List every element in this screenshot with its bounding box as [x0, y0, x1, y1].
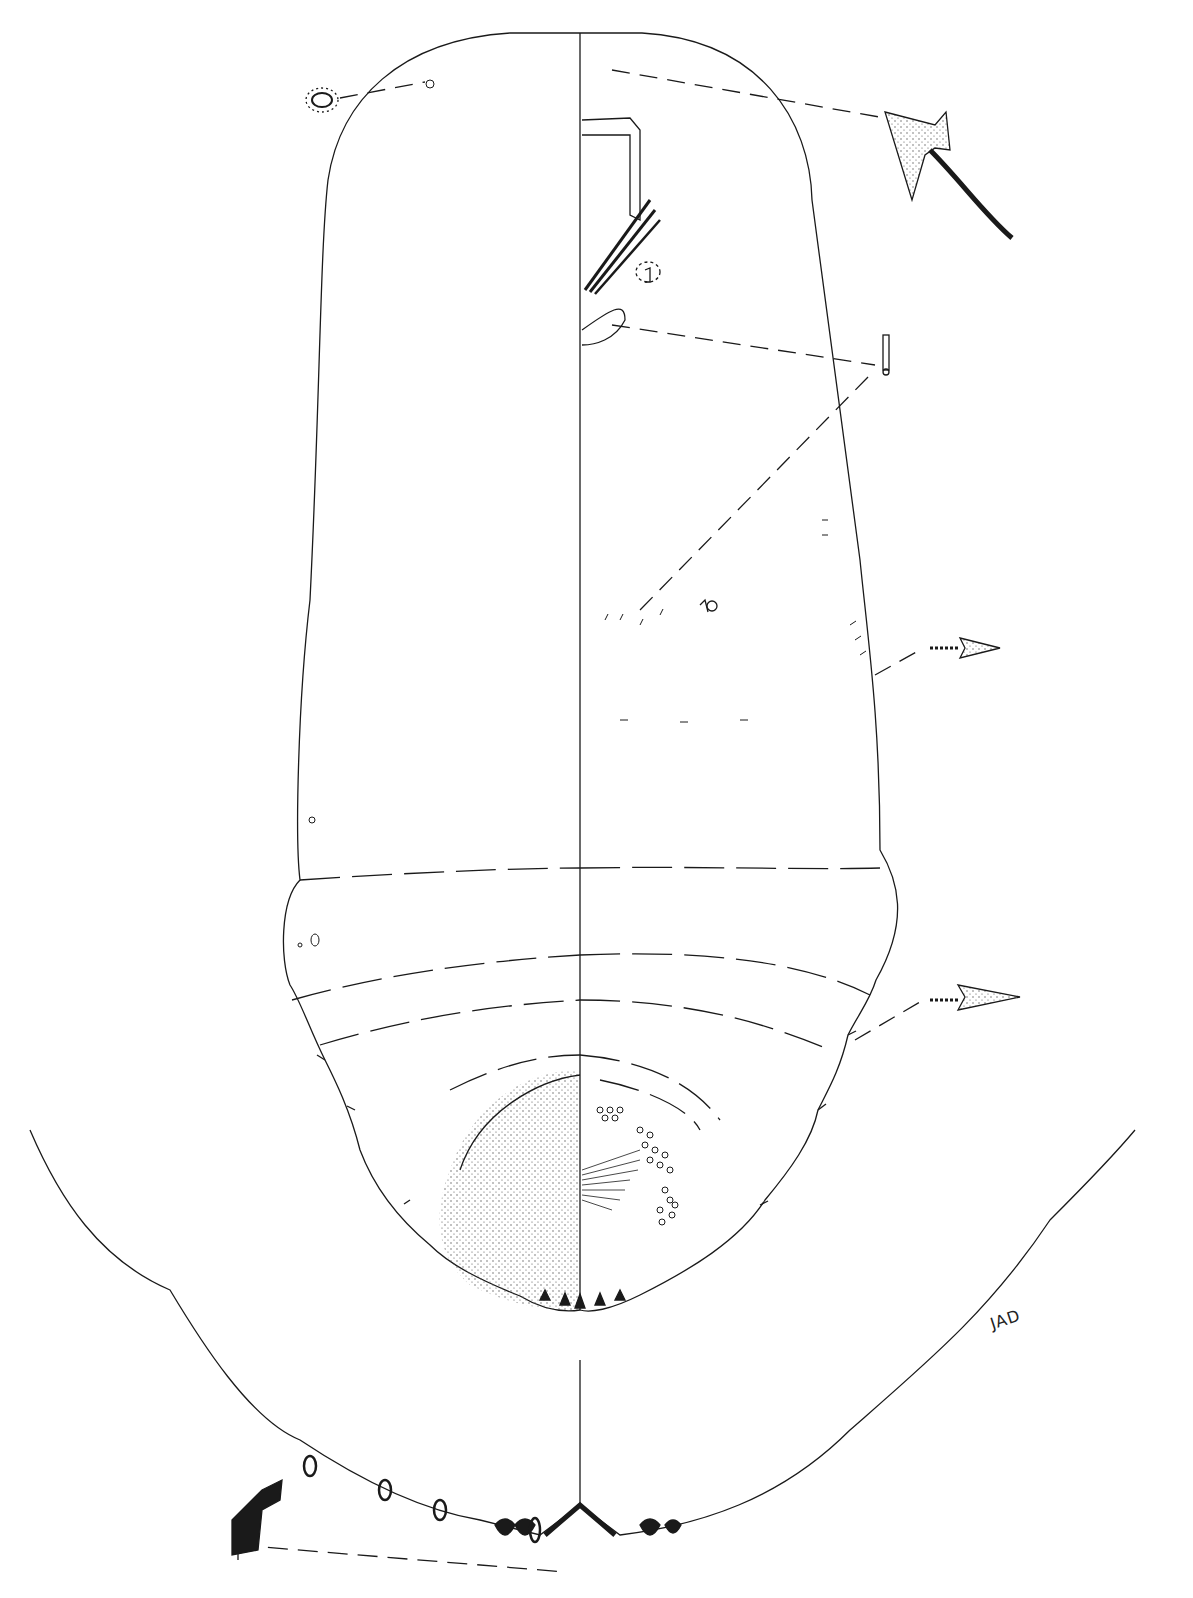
- spiracles: [636, 262, 717, 612]
- duct-clusters: [597, 1107, 678, 1225]
- marginal-spine-inset-lower: [930, 985, 1020, 1010]
- ventral-duct-inset: [883, 335, 889, 375]
- segment-lines: [292, 867, 880, 1130]
- pygidium-stipple: [440, 1070, 580, 1310]
- marginal-spine-inset-upper: [930, 638, 1000, 658]
- pygidium-margin-enlargement: [30, 1130, 1135, 1572]
- setae: [298, 80, 866, 947]
- anal-fan: [582, 1150, 640, 1210]
- mouthparts: [582, 118, 660, 345]
- plate-detail-inset: [232, 1480, 282, 1555]
- spine-inset: [885, 112, 1012, 238]
- dorsal-pore-inset: [306, 88, 338, 112]
- body-outline: [283, 33, 897, 1311]
- illustration-canvas: [0, 0, 1193, 1598]
